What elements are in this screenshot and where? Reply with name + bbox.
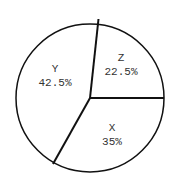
- slice-z-label: Z: [96, 51, 146, 65]
- slice-y: Y 42.5%: [30, 62, 80, 90]
- slice-z: Z 22.5%: [96, 51, 146, 79]
- slice-z-value: 22.5%: [96, 65, 146, 79]
- slice-x-value: 35%: [87, 135, 137, 149]
- slice-x: X 35%: [87, 121, 137, 149]
- slice-y-label: Y: [30, 62, 80, 76]
- slice-x-label: X: [87, 121, 137, 135]
- pie-chart: [0, 0, 174, 186]
- slice-y-value: 42.5%: [30, 76, 80, 90]
